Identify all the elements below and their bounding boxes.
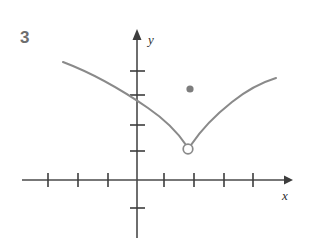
filled-dot-point bbox=[186, 85, 193, 92]
figure-container: 3 y x bbox=[0, 0, 313, 252]
graph-canvas: y x bbox=[0, 0, 313, 252]
open-circle-point bbox=[183, 144, 193, 154]
curve-left-branch bbox=[63, 62, 186, 145]
y-axis-label: y bbox=[146, 32, 154, 47]
curve-right-branch bbox=[191, 78, 276, 145]
y-axis-arrow-icon bbox=[133, 29, 142, 40]
x-axis-label: x bbox=[281, 188, 288, 203]
x-axis-arrow-icon bbox=[284, 176, 293, 185]
